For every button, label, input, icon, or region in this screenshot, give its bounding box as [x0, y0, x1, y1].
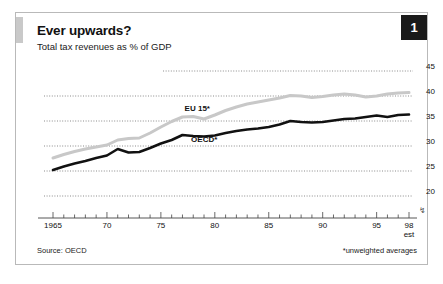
x-axis-tick-label: 70 [92, 221, 122, 230]
y-axis-tick-label: 30 [417, 137, 435, 146]
x-axis-est-sublabel: est [394, 230, 424, 239]
x-axis-tick-label: 75 [146, 221, 176, 230]
footnote-label: *unweighted averages [343, 246, 417, 255]
y-axis-tick-label: 35 [417, 112, 435, 121]
source-label: Source: OECD [37, 246, 87, 255]
x-axis-tick-label: 1965 [38, 221, 68, 230]
x-axis-tick-label: 95 [362, 221, 392, 230]
x-axis-tick-label: 90 [308, 221, 338, 230]
series-label-eu15: EU 15* [185, 104, 210, 113]
chart-canvas [38, 46, 417, 229]
axis-break-symbol: ↯ [419, 206, 426, 215]
series-line-eu15 [53, 93, 409, 159]
series-label-oecd: OECD* [191, 135, 217, 144]
series-line-oecd [53, 115, 409, 171]
y-axis-tick-label: 25 [417, 162, 435, 171]
y-axis-tick-label: 45 [417, 62, 435, 71]
title-accent-bar [16, 17, 23, 43]
y-axis-tick-label: 20 [417, 187, 435, 196]
x-axis-tick-label: 80 [200, 221, 230, 230]
x-axis-tick-label: 85 [254, 221, 284, 230]
page-title: Ever upwards? [37, 23, 131, 38]
figure-number-badge: 1 [401, 15, 427, 40]
x-axis-tick-label: 98 [394, 221, 424, 230]
chart-figure: Ever upwards? Total tax revenues as % of… [15, 12, 428, 265]
y-axis-tick-label: 40 [417, 87, 435, 96]
plot-area: 202530354045↯196570758085909598estEU 15*… [38, 46, 417, 229]
